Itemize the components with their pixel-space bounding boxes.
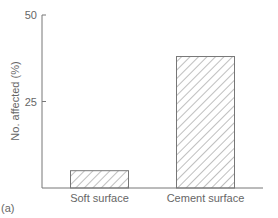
bar-cement-surface (177, 57, 235, 188)
bar-chart: 2550 Soft surfaceCement surface No. affe… (0, 0, 278, 218)
y-tick-label: 25 (25, 96, 37, 108)
x-labels-group: Soft surfaceCement surface (70, 192, 244, 204)
x-category-label: Soft surface (70, 192, 129, 204)
bar-soft-surface (71, 171, 129, 188)
y-axis-title: No. affected (%) (9, 61, 21, 140)
y-ticks-group: 2550 (25, 9, 46, 108)
panel-label: (a) (1, 202, 14, 214)
y-tick-label: 50 (25, 9, 37, 21)
x-category-label: Cement surface (167, 192, 245, 204)
bars-group (71, 57, 235, 188)
